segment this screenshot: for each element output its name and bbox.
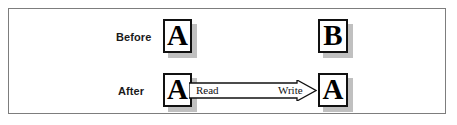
arrow-label-write: Write (278, 85, 303, 96)
before-left-box-letter: A (167, 21, 188, 50)
arrow-label-read: Read (196, 85, 219, 96)
before-right-box-letter: B (323, 21, 342, 50)
before-left-box: A (163, 19, 192, 53)
before-right-box: B (318, 19, 348, 53)
row-label-before: Before (116, 31, 151, 43)
figure-canvas: Before A B After A Read Write A (0, 0, 457, 125)
after-right-box: A (318, 73, 348, 107)
after-left-box: A (163, 73, 192, 107)
after-right-box-letter: A (323, 75, 344, 104)
row-label-after: After (118, 85, 144, 97)
after-left-box-letter: A (167, 75, 188, 104)
